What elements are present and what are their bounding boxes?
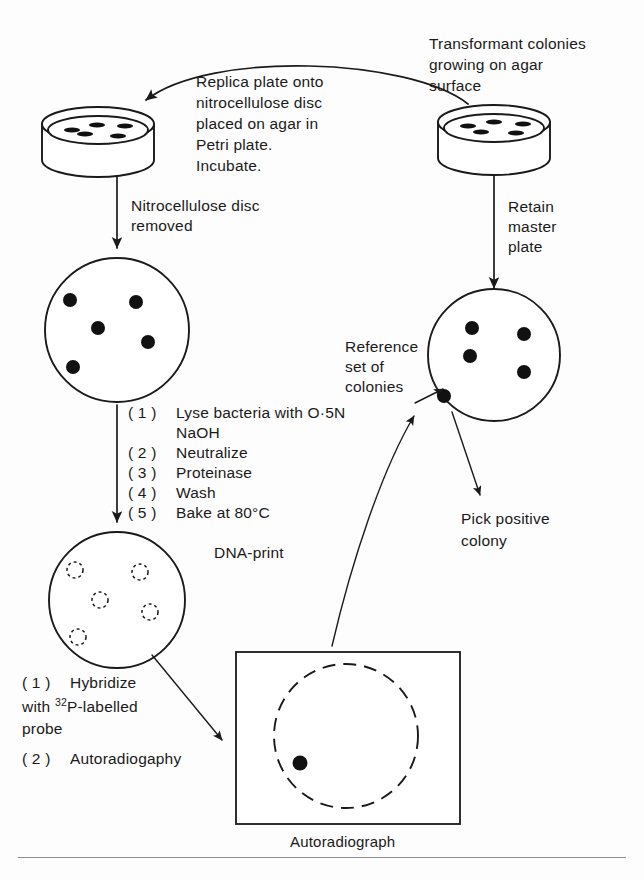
transformant-line-3: surface — [429, 77, 481, 94]
transformant-line-2: growing on agar — [429, 56, 543, 73]
autoradiograph-film — [236, 652, 460, 824]
nitrocellulose-removed-label: Nitrocellulose disc removed — [131, 197, 260, 234]
arrow-autoradiograph-to-reference — [332, 416, 414, 646]
processing-step-2-number: ( 2 ) — [128, 444, 157, 461]
nitrocellulose-disc — [45, 258, 189, 402]
nitrocellulose-removed-line-1: Nitrocellulose disc — [131, 197, 260, 214]
pick-positive-line-1: Pick positive — [461, 510, 550, 527]
reference-set-label: Reference set of colonies — [345, 338, 418, 395]
processing-steps-list: ( 1 ) Lyse bacteria with O·5N NaOH ( 2 )… — [128, 404, 345, 521]
hybridize-step-1-number: ( 1 ) — [22, 674, 51, 691]
processing-step-1-cont: NaOH — [176, 424, 220, 441]
replica-plate-line-5: Incubate. — [196, 157, 262, 174]
retain-master-line-3: plate — [508, 238, 543, 255]
hybridize-step-1-text: Hybridize — [70, 674, 136, 691]
footer-divider — [18, 857, 626, 858]
hybridize-line-2-prefix: with — [21, 698, 55, 715]
nitrocellulose-removed-line-2: removed — [131, 217, 193, 234]
replica-plate-line-4: Petri plate. — [196, 136, 273, 153]
autoradiograph-positive-signal — [293, 756, 308, 771]
processing-step-5-number: ( 5 ) — [128, 504, 157, 521]
hybridize-line-2-suffix: P-labelled — [67, 698, 138, 715]
processing-step-3-number: ( 3 ) — [128, 464, 157, 481]
dna-print-label: DNA-print — [214, 544, 284, 561]
transformant-line-1: Transformant colonies — [429, 35, 586, 52]
hybridize-isotope-superscript: 32 — [55, 696, 67, 708]
hybridization-steps-list: ( 1 ) Hybridize with 32P-labelled probe … — [21, 674, 181, 767]
reference-set-line-2: set of — [345, 358, 385, 375]
reference-set-line-3: colonies — [345, 378, 404, 395]
replica-plate-label: Replica plate onto nitrocellulose disc p… — [196, 73, 324, 174]
hybridize-step-2-number: ( 2 ) — [22, 750, 51, 767]
reference-colonies-disc — [428, 289, 560, 421]
reference-set-line-1: Reference — [345, 338, 418, 355]
figure-root: Replica plate onto nitrocellulose disc p… — [0, 0, 644, 880]
processing-step-4-text: Wash — [176, 484, 216, 501]
processing-step-1-number: ( 1 ) — [128, 404, 157, 421]
arrow-hybridize-to-autoradiograph — [152, 655, 222, 740]
retain-master-line-1: Retain — [508, 198, 554, 215]
hybridize-step-2-text: Autoradiogaphy — [70, 750, 181, 767]
autoradiograph-label: Autoradiograph — [290, 833, 395, 850]
master-petri-dish — [438, 105, 550, 175]
replica-plate-line-3: placed on agar in — [196, 115, 318, 132]
pick-positive-line-2: colony — [461, 532, 507, 549]
arrow-pick-positive-colony — [452, 412, 480, 495]
replica-petri-dish — [42, 107, 154, 177]
transformant-colonies-label: Transformant colonies growing on agar su… — [429, 35, 586, 94]
hybridize-line-2: with 32P-labelled — [21, 696, 138, 715]
processing-step-2-text: Neutralize — [176, 444, 248, 461]
replica-plate-line-1: Replica plate onto — [196, 73, 324, 90]
replica-plate-line-2: nitrocellulose disc — [196, 94, 322, 111]
processing-step-5-text: Bake at 80°C — [176, 504, 270, 521]
processing-step-3-text: Proteinase — [176, 464, 252, 481]
colony-hybridization-diagram: Replica plate onto nitrocellulose disc p… — [0, 0, 644, 880]
processing-step-4-number: ( 4 ) — [128, 484, 157, 501]
hybridize-line-3: probe — [22, 720, 63, 737]
pick-positive-label: Pick positive colony — [461, 510, 550, 549]
retain-master-plate-label: Retain master plate — [508, 198, 557, 255]
retain-master-line-2: master — [508, 218, 557, 235]
processing-step-1-text: Lyse bacteria with O·5N — [176, 404, 345, 421]
dna-print-disc — [49, 532, 185, 668]
